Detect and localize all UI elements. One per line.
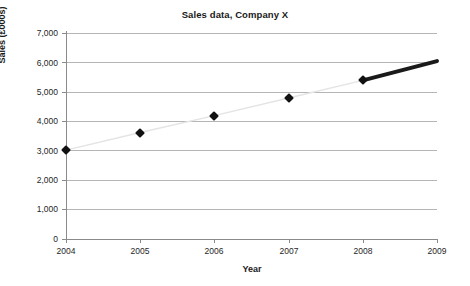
x-tick-label-2009: 2009 (417, 246, 457, 256)
x-tick-label-2004: 2004 (46, 246, 86, 256)
series-lines (0, 0, 470, 286)
y-tick-label-0: 0 (20, 234, 58, 244)
x-tick-2005 (140, 239, 141, 243)
trend-projection-line (363, 61, 437, 80)
data-point-2004 (61, 145, 71, 155)
y-axis-line (66, 31, 67, 241)
x-tick-label-2007: 2007 (269, 246, 309, 256)
x-axis-title: Year (66, 264, 438, 274)
x-tick-label-2005: 2005 (120, 246, 160, 256)
y-tick-2000 (62, 180, 66, 181)
y-tick-7000 (62, 33, 66, 34)
y-tick-5000 (62, 92, 66, 93)
data-point-2006 (209, 111, 219, 121)
data-point-2008 (358, 75, 368, 85)
y-tick-label-6000: 6,000 (20, 58, 58, 68)
gridline-3000 (66, 150, 437, 151)
chart-container: Sales data, Company X 7,000 6,000 5,000 … (0, 0, 470, 286)
data-point-2005 (135, 128, 145, 138)
x-tick-2004 (66, 239, 67, 243)
y-tick-4000 (62, 121, 66, 122)
y-tick-label-4000: 4,000 (20, 116, 58, 126)
y-tick-label-1000: 1,000 (20, 204, 58, 214)
y-tick-label-7000: 7,000 (20, 28, 58, 38)
y-tick-1000 (62, 209, 66, 210)
x-tick-label-2008: 2008 (343, 246, 383, 256)
x-axis-line (66, 239, 438, 240)
gridline-2000 (66, 180, 437, 181)
gridline-1000 (66, 209, 437, 210)
gridline-7000 (66, 33, 437, 34)
gridline-4000 (66, 121, 437, 122)
y-tick-6000 (62, 62, 66, 63)
data-point-2007 (284, 93, 294, 103)
x-tick-2007 (289, 239, 290, 243)
y-axis-title: Sales (£000s) (0, 0, 7, 95)
x-tick-label-2006: 2006 (194, 246, 234, 256)
y-tick-label-2000: 2,000 (20, 175, 58, 185)
x-tick-2006 (214, 239, 215, 243)
x-tick-2008 (363, 239, 364, 243)
gridline-6000 (66, 62, 437, 63)
x-tick-2009 (437, 239, 438, 243)
gridline-5000 (66, 92, 437, 93)
y-tick-label-5000: 5,000 (20, 87, 58, 97)
y-tick-label-3000: 3,000 (20, 146, 58, 156)
chart-title: Sales data, Company X (0, 9, 470, 20)
